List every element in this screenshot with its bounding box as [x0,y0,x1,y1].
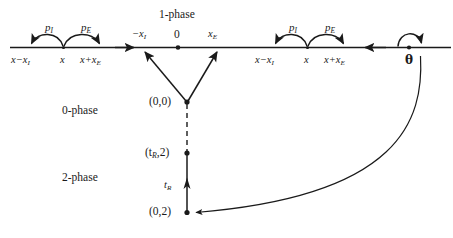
center-axis-dots [176,45,181,50]
label-2-phase: 2-phase [62,172,98,184]
left-pE-subscript: E [87,26,92,35]
left-tick-left-subscript: I [27,59,29,67]
label-right-tick-x: x [304,55,309,66]
right-axis-tick-dots [306,46,309,49]
label-right-pI: pI [289,22,297,35]
left-tick-left-base: x−x [11,54,27,65]
transition-arrow-to-minus-xI [145,52,186,101]
right-pI-subscript: I [295,26,298,35]
right-rate-arc-pE [308,34,344,46]
return-curve-theta-to-zero2 [196,56,421,213]
diagram-vector-layer [0,0,453,238]
state-tR-2-open: (t [145,146,152,158]
left-rate-arc-pI [32,34,64,46]
label-left-tick-x: x [60,55,65,66]
left-tick-right-base: x+x [80,54,96,65]
label-origin-zero: 0 [174,29,180,41]
right-pE-subscript: E [331,26,336,35]
label-xE: xE [208,29,217,41]
label-left-pE: pE [81,22,91,35]
label-0-phase: 0-phase [62,105,98,117]
right-tick-right-subscript: E [340,59,344,67]
right-rate-arc-pI [276,34,308,46]
tR-subscript: R [167,184,171,192]
xE-subscript: E [213,33,217,41]
label-tR: tR [164,180,171,192]
left-tick-right-subscript: E [96,59,100,67]
state-tR-2-close: ,2) [157,146,169,158]
label-left-tick-x-minus-xI: x−xI [11,55,30,67]
label-minus-xI: −xI [132,29,146,41]
right-tick-left-base: x−x [255,54,271,65]
label-right-tick-x-plus-xE: x+xE [324,55,345,67]
left-pI-subscript: I [51,26,54,35]
left-rate-arc-pE [64,34,100,46]
label-right-pE: pE [325,22,335,35]
minus-xI-subscript: I [144,33,146,41]
right-tick-left-subscript: I [271,59,273,67]
label-state-0-0: (0,0) [149,96,171,108]
label-state-tR-2: (tR,2) [145,147,169,160]
label-left-pI: pI [45,22,53,35]
label-1-phase: 1-phase [159,9,195,21]
label-state-0-2: (0,2) [149,206,171,218]
label-theta: θ [405,54,413,66]
figure-canvas: 1-phase 0-phase 2-phase pI pE x−xI x x+x… [0,0,453,238]
transition-arrow-to-xE [188,52,217,101]
right-tick-right-base: x+x [324,54,340,65]
label-right-tick-x-minus-xI: x−xI [255,55,274,67]
label-left-tick-x-plus-xE: x+xE [80,55,101,67]
minus-xI-base: −x [132,28,144,39]
left-axis-tick-dots [62,46,65,49]
